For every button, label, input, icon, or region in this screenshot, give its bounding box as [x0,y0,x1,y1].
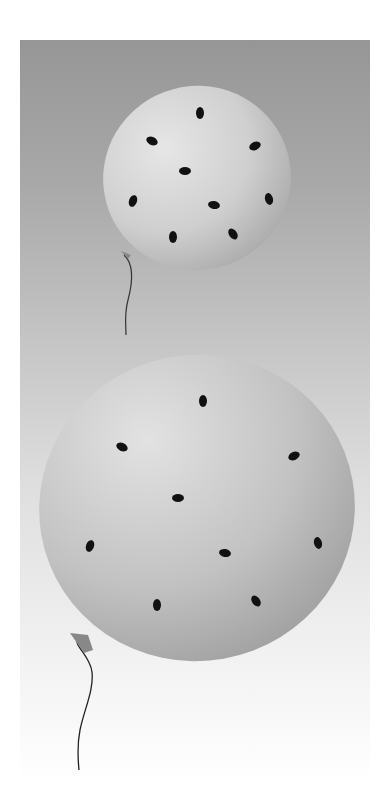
large-balloon [15,330,379,770]
bug-icon [172,494,184,502]
balloons-illustration [0,0,390,812]
bug-icon [196,107,204,119]
bug-icon [179,167,191,175]
bug-icon [153,599,161,611]
bug-icon [169,231,177,243]
bug-icon [199,395,207,407]
small-balloon-string [124,255,132,335]
large-balloon-string [77,637,92,770]
small-balloon [82,65,311,335]
